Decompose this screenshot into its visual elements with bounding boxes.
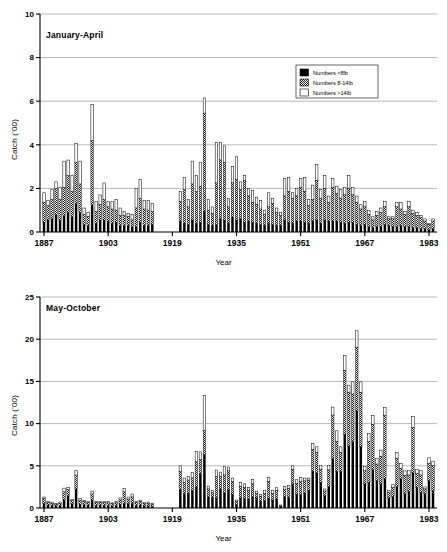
bar-segment-mid — [99, 503, 101, 506]
bar-segment-mid — [131, 497, 133, 503]
panel-may-october: 05101520251887190319191935195119671983 M… — [0, 276, 447, 552]
bar-segment-mid — [87, 503, 89, 506]
bar-segment-mid — [388, 219, 390, 226]
bar-segment-small — [263, 501, 265, 508]
bar-segment-large — [107, 201, 109, 206]
bar-segment-mid — [376, 216, 378, 227]
bar-segment-mid — [331, 187, 333, 221]
bar-segment-small — [179, 489, 181, 508]
bar-segment-small — [75, 489, 77, 508]
bar-segment-large — [263, 210, 265, 214]
bar-segment-mid — [311, 199, 313, 221]
x-tick-label: 1903 — [99, 238, 118, 248]
bar-segment-large — [275, 208, 277, 212]
bar-segment-large — [191, 473, 193, 478]
bar-segment-mid — [47, 503, 49, 506]
bar-segment-mid — [147, 210, 149, 225]
bar-segment-mid — [267, 207, 269, 223]
bar-segment-large — [75, 144, 77, 163]
bar-segment-small — [283, 497, 285, 508]
bar-segment-mid — [388, 492, 390, 497]
bar-segment-mid — [404, 476, 406, 494]
bar-segment-small — [235, 504, 237, 508]
bar-segment-large — [267, 477, 269, 482]
bar-segment-large — [267, 193, 269, 207]
bar-segment-large — [79, 499, 81, 501]
bar-segment-small — [420, 492, 422, 508]
bar-segment-small — [295, 494, 297, 508]
bar-segment-small — [47, 220, 49, 232]
bar-segment-mid — [223, 475, 225, 492]
bar-segment-large — [299, 478, 301, 482]
x-tick-label: 1983 — [420, 238, 439, 248]
bar-segment-small — [99, 220, 101, 232]
bar-segment-mid — [372, 424, 374, 469]
bar-segment-small — [299, 495, 301, 509]
bar-segment-large — [75, 470, 77, 475]
bar-segment-small — [360, 225, 362, 232]
bar-segment-mid — [299, 187, 301, 221]
bar-segment-large — [315, 164, 317, 180]
bar-segment-large — [356, 331, 358, 347]
bar-segment-small — [95, 223, 97, 232]
bar-segment-mid — [259, 209, 261, 224]
bar-segment-mid — [135, 208, 137, 227]
bar-segment-mid — [384, 207, 386, 224]
bar-segment-small — [348, 446, 350, 508]
bar-segment-small — [295, 221, 297, 232]
bar-segment-large — [179, 192, 181, 202]
bar-segment-small — [43, 222, 45, 232]
bar-segment-mid — [51, 199, 53, 219]
bar-segment-mid — [376, 464, 378, 480]
bar-segment-small — [303, 493, 305, 508]
panel-january-april: 02468101887190319191935195119671983Numbe… — [0, 0, 447, 276]
bar-segment-large — [364, 201, 366, 206]
bar-segment-large — [143, 200, 145, 209]
bar-segment-small — [315, 473, 317, 508]
bar-segment-mid — [111, 504, 113, 506]
bar-segment-large — [183, 478, 185, 483]
bar-segment-mid — [303, 481, 305, 493]
bar-segment-mid — [127, 499, 129, 504]
bar-segment-small — [143, 225, 145, 232]
bar-segment-large — [71, 175, 73, 191]
bar-segment-large — [340, 447, 342, 452]
y-tick-label: 15 — [25, 377, 34, 386]
bar-segment-large — [251, 479, 253, 484]
panel-title-may-october: May-October — [46, 303, 100, 313]
bar-segment-large — [123, 489, 125, 492]
bar-segment-large — [388, 490, 390, 492]
bar-segment-large — [380, 450, 382, 456]
bar-segment-small — [127, 504, 129, 508]
bar-segment-mid — [251, 484, 253, 497]
bar-segment-small — [199, 474, 201, 508]
bar-segment-mid — [267, 482, 269, 498]
bar-segment-mid — [352, 195, 354, 222]
bar-segment-large — [247, 188, 249, 196]
bar-segment-small — [380, 227, 382, 232]
bar-segment-large — [67, 487, 69, 489]
bar-segment-large — [319, 189, 321, 198]
bar-segment-mid — [235, 180, 237, 220]
bar-segment-mid — [356, 203, 358, 225]
x-tick-label: 1935 — [227, 514, 246, 524]
bar-segment-mid — [43, 499, 45, 504]
bar-segment-small — [319, 223, 321, 232]
bar-segment-large — [368, 433, 370, 441]
bar-segment-large — [51, 189, 53, 199]
bar-segment-small — [207, 497, 209, 508]
bar-segment-mid — [247, 490, 249, 499]
bar-segment-large — [131, 215, 133, 220]
bar-segment-small — [239, 498, 241, 508]
bar-segment-mid — [255, 205, 257, 224]
bar-segment-mid — [83, 215, 85, 225]
bar-segment-mid — [432, 221, 434, 229]
bar-segment-mid — [123, 492, 125, 503]
bar-segment-mid — [103, 503, 105, 506]
bar-segment-small — [115, 222, 117, 232]
bar-segment-small — [372, 470, 374, 508]
bar-segment-small — [51, 219, 53, 232]
y-tick-label: 25 — [25, 293, 34, 302]
bar-segment-large — [47, 200, 49, 205]
bar-segment-large — [59, 187, 61, 199]
